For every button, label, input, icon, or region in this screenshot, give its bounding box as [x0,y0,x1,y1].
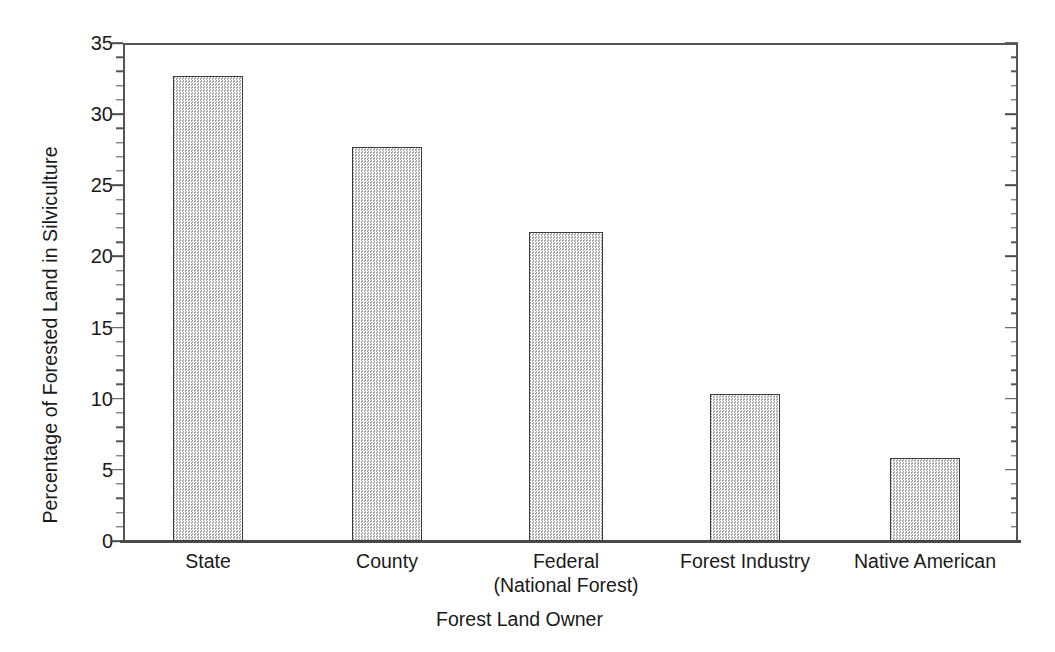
y-tick-minor [116,298,123,299]
y-tick-minor [116,85,123,86]
bars-layer [123,43,1018,541]
x-tick-label-line: Federal [533,550,599,572]
y-tick-label: 5 [58,460,113,480]
bar [529,232,603,541]
y-tick-major [110,113,123,115]
x-tick-label-line: Native American [854,550,996,572]
y-tick-minor [116,227,123,228]
y-tick-minor [116,199,123,200]
y-tick-label: 0 [58,531,113,551]
y-tick-minor [116,71,123,72]
x-tick-label-line: State [185,550,231,572]
y-tick-minor [116,483,123,484]
y-tick-label: 10 [58,389,113,409]
y-tick-label: 30 [58,104,113,124]
y-tick-label: 20 [58,246,113,266]
x-tick-label: Federal(National Forest) [493,549,638,597]
y-tick-minor [116,412,123,413]
y-tick-minor [116,142,123,143]
y-tick-minor [116,57,123,58]
y-tick-minor [116,384,123,385]
y-tick-minor [116,156,123,157]
x-tick-label: Native American [854,549,996,573]
x-axis-tick-labels: StateCountyFederal(National Forest)Fores… [123,549,1018,609]
y-tick-minor [116,370,123,371]
bar [352,147,422,541]
y-tick-minor [116,270,123,271]
y-tick-minor [116,170,123,171]
y-tick-major [110,469,123,471]
y-tick-minor [116,241,123,242]
y-tick-minor [116,355,123,356]
y-tick-label: 35 [58,33,113,53]
y-tick-minor [116,313,123,314]
x-tick-label: County [356,549,418,573]
y-tick-minor [116,99,123,100]
y-tick-minor [116,341,123,342]
y-tick-minor [116,213,123,214]
y-tick-major [110,42,123,44]
y-tick-minor [116,284,123,285]
x-tick-label-line: Forest Industry [680,550,810,572]
y-tick-minor [116,426,123,427]
y-tick-label: 25 [58,175,113,195]
bar-chart-figure: Percentage of Forested Land in Silvicult… [0,0,1055,652]
x-tick-label-line: (National Forest) [493,573,638,597]
bar [710,394,780,541]
y-tick-minor [116,498,123,499]
x-tick-label: State [185,549,231,573]
y-tick-major [110,184,123,186]
y-tick-major [110,327,123,329]
y-tick-major [110,256,123,258]
y-tick-minor [116,128,123,129]
y-tick-minor [116,512,123,513]
y-tick-minor [116,441,123,442]
bar [890,458,960,541]
y-tick-minor [116,526,123,527]
x-tick-label: Forest Industry [680,549,810,573]
y-tick-label: 15 [58,318,113,338]
y-axis-tick-labels: 05101520253035 [58,43,113,541]
x-tick-label-line: County [356,550,418,572]
x-axis-title-text: Forest Land Owner [436,608,603,631]
y-tick-major [110,398,123,400]
y-tick-minor [116,455,123,456]
x-axis-title: Forest Land Owner [0,608,1055,631]
bar [173,76,243,541]
